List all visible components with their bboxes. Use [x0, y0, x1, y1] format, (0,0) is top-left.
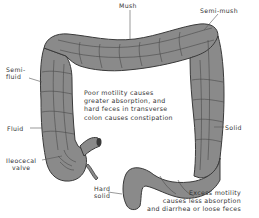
label-ileocecal-valve: Ileocecal valve [6, 157, 36, 172]
descending-colon [190, 36, 224, 178]
label-semi-fluid: Semi- fluid [6, 66, 25, 81]
note-excess-motility: Excess motility causes less absorption a… [147, 189, 241, 214]
ileum-opening [97, 138, 102, 146]
label-mush: Mush [119, 2, 137, 9]
appendix [86, 164, 98, 180]
label-fluid: Fluid [7, 125, 24, 132]
colon-diagram: Mush Semi-mush Semi- fluid Fluid Ileocec… [0, 0, 259, 218]
label-semi-mush: Semi-mush [200, 7, 238, 14]
note-poor-motility: Poor motility causes greater absorption,… [84, 89, 173, 122]
label-solid: Solid [225, 124, 242, 131]
label-hard-solid: Hard solid [94, 185, 110, 200]
